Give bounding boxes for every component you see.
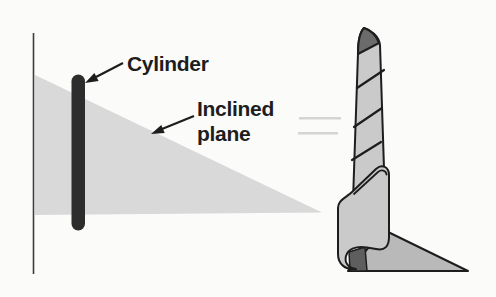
inclined-plane-label-line1: Inclined [197,97,274,120]
faint-note-line-2 [298,132,338,135]
inclined-plane-label-line2: plane [197,122,250,145]
screw-inclined-plane-figure: Cylinder Inclined plane [0,0,496,297]
cylinder-label: Cylinder [127,52,209,75]
cylinder-bar [72,75,86,231]
figure-canvas: Cylinder Inclined plane [0,0,496,297]
faint-note-line-1 [299,117,341,120]
